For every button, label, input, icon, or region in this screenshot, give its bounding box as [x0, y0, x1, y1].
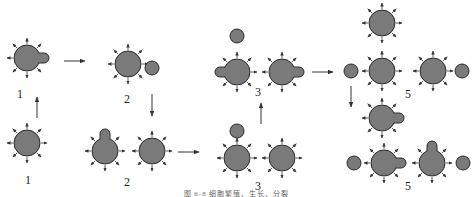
cell-body [224, 145, 250, 171]
stage5-row2-right-cell [412, 141, 452, 183]
secretion-arrow-icon [37, 68, 41, 72]
secretion-arrow-icon [443, 57, 447, 61]
secretion-arrow-icon [268, 82, 272, 86]
stage2-top-cell [108, 44, 148, 84]
secretion-arrow-icon [138, 161, 142, 165]
cell-body [369, 58, 395, 84]
bud-joint [382, 114, 397, 123]
secretion-arrow-icon [162, 161, 166, 165]
secretion-arrow-icon [91, 137, 95, 141]
label-5-top: 5 [405, 87, 411, 102]
secretion-arrow-icon [138, 137, 142, 141]
stage5-middle-cell [362, 98, 404, 138]
secretion-arrow-icon [37, 44, 41, 48]
bud-joint [384, 159, 399, 168]
stage5-row1-right-cell [413, 51, 453, 91]
daughter-cell [344, 64, 358, 78]
secretion-arrow-icon [37, 129, 41, 133]
cell-body [115, 51, 141, 77]
stage5-row2-right-daughter [456, 156, 470, 170]
bud-joint [282, 68, 297, 77]
secretion-arrow-icon [418, 173, 422, 177]
secretion-arrow-icon [392, 9, 396, 13]
secretion-arrow-icon [268, 168, 272, 172]
daughter-cell [347, 156, 361, 170]
stage3-bottom-daughter [230, 124, 244, 138]
stage3-top-left-cell [215, 52, 257, 92]
cell-division-diagram [0, 0, 473, 197]
stage5-row2-left-daughter [347, 156, 361, 170]
label-3-top: 3 [255, 85, 261, 100]
secretion-arrow-icon [419, 81, 423, 85]
secretion-arrow-icon [247, 82, 251, 86]
secretion-arrow-icon [13, 129, 17, 133]
secretion-arrow-icon [13, 68, 17, 72]
bud-joint [222, 68, 237, 77]
secretion-arrow-icon [368, 81, 372, 85]
secretion-arrow-icon [115, 137, 119, 141]
stage1-bottom-cell [7, 123, 47, 163]
stage3-bottom-right-cell [262, 138, 302, 178]
stage3-bottom-left-cell [217, 138, 257, 178]
secretion-arrow-icon [13, 153, 17, 157]
secretion-arrow-icon [443, 81, 447, 85]
secretion-arrow-icon [370, 149, 374, 153]
secretion-arrow-icon [392, 104, 396, 108]
cell-body [14, 130, 40, 156]
secretion-arrow-icon [392, 128, 396, 132]
stage5-row1-right-daughter [455, 64, 469, 78]
secretion-arrow-icon [114, 74, 118, 78]
secretion-arrow-icon [292, 58, 296, 62]
daughter-cell [230, 29, 244, 43]
daughter-cell [230, 124, 244, 138]
secretion-arrow-icon [394, 149, 398, 153]
stage2-bottom-right-cell [132, 131, 172, 171]
stage5-row1-left-cell [362, 51, 402, 91]
secretion-arrow-icon [368, 57, 372, 61]
secretion-arrow-icon [247, 144, 251, 148]
secretion-arrow-icon [223, 168, 227, 172]
stage3-top-daughter [230, 29, 244, 43]
secretion-arrow-icon [392, 57, 396, 61]
secretion-arrow-icon [37, 153, 41, 157]
cell-body [369, 10, 395, 36]
cell-body [420, 58, 446, 84]
secretion-arrow-icon [442, 173, 446, 177]
daughter-cell [455, 64, 469, 78]
secretion-arrow-icon [368, 9, 372, 13]
cell-body [139, 138, 165, 164]
secretion-arrow-icon [368, 33, 372, 37]
cells [7, 3, 470, 183]
secretion-arrow-icon [394, 173, 398, 177]
stage5-row1-left-daughter [344, 64, 358, 78]
secretion-arrow-icon [114, 50, 118, 54]
cell-body [269, 145, 295, 171]
secretion-arrow-icon [292, 82, 296, 86]
label-1-bottom: 1 [25, 173, 31, 188]
secretion-arrow-icon [223, 58, 227, 62]
secretion-arrow-icon [392, 81, 396, 85]
bud-joint [428, 148, 437, 163]
secretion-arrow-icon [138, 74, 142, 78]
secretion-arrow-icon [138, 50, 142, 54]
stage3-top-right-cell [262, 52, 304, 92]
secretion-arrow-icon [370, 173, 374, 177]
bud-joint [27, 54, 42, 63]
secretion-arrow-icon [91, 161, 95, 165]
stage2-top-daughter [145, 61, 159, 75]
flow-arrows [37, 61, 351, 152]
stage5-top-cell [362, 3, 402, 43]
secretion-arrow-icon [442, 149, 446, 153]
secretion-arrow-icon [13, 44, 17, 48]
daughter-cell [145, 61, 159, 75]
secretion-arrow-icon [292, 144, 296, 148]
secretion-arrow-icon [223, 144, 227, 148]
secretion-arrow-icon [368, 104, 372, 108]
secretion-arrow-icon [223, 82, 227, 86]
secretion-arrow-icon [418, 149, 422, 153]
label-1-top: 1 [17, 87, 23, 102]
secretion-arrow-icon [268, 58, 272, 62]
secretion-arrow-icon [368, 128, 372, 132]
secretion-arrow-icon [247, 58, 251, 62]
stage2-bottom-left-cell [85, 129, 125, 171]
